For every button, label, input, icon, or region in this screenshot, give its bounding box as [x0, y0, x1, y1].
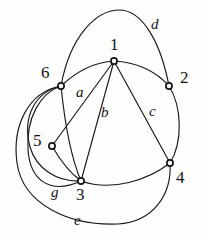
vertex-label-2: 2	[180, 69, 189, 86]
graph-edge-6-1	[61, 61, 114, 86]
graph-vertex-2	[166, 83, 172, 89]
graph-vertex-5	[49, 143, 55, 149]
graph-edge-1-3-b	[81, 61, 114, 181]
edge-label-g: g	[51, 185, 59, 200]
edge-label-a: a	[76, 85, 84, 100]
edge-label-d: d	[151, 17, 159, 32]
graph-vertex-6	[58, 83, 64, 89]
vertex-label-4: 4	[176, 169, 185, 186]
vertex-label-1: 1	[110, 36, 119, 53]
graph-edge-1-2	[114, 61, 169, 86]
graph-edge-6-3	[61, 86, 81, 181]
graph-vertex-1	[111, 58, 117, 64]
vertex-layer	[49, 58, 173, 184]
graph-figure: 123456 abcdeg	[0, 0, 207, 233]
graph-edge-1-4-c	[114, 61, 170, 163]
graph-vertex-4	[167, 160, 173, 166]
graph-edge-2-4	[169, 86, 179, 163]
graph-vertex-3	[78, 178, 84, 184]
vertex-label-3: 3	[76, 186, 85, 203]
vertex-label-5: 5	[33, 132, 42, 149]
graph-edge-5-3	[52, 146, 81, 181]
edge-label-e: e	[74, 213, 81, 228]
graph-edge-6-4-e	[16, 86, 170, 224]
edge-label-c: c	[149, 104, 156, 119]
edge-label-b: b	[101, 105, 109, 120]
graph-edge-3-4	[81, 163, 170, 185]
vertex-label-6: 6	[41, 64, 50, 81]
